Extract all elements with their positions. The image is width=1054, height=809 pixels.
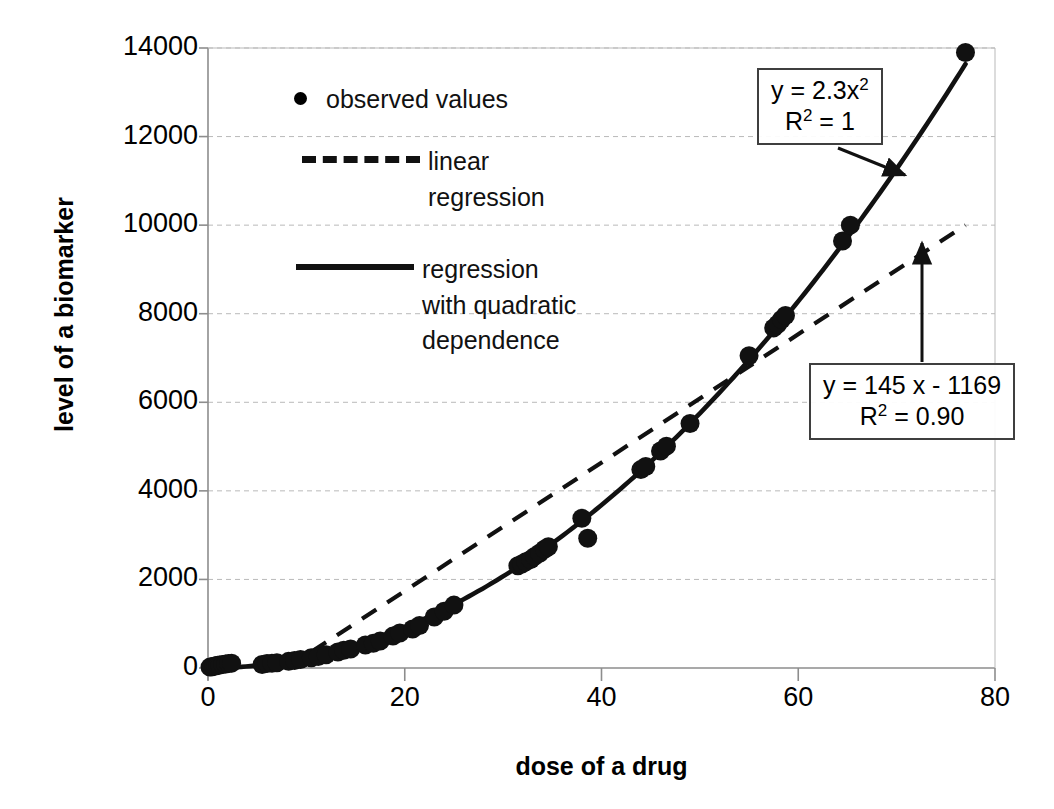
legend-label-quadratic-regression: regression with quadratic dependence <box>422 252 576 359</box>
legend-item-quadratic-regression: regression with quadratic dependence <box>296 252 576 359</box>
legend-key-solid-line <box>296 252 416 282</box>
dashed-line-icon <box>302 156 420 163</box>
legend-key-dot <box>286 82 320 112</box>
x-tick-label: 60 <box>758 682 838 713</box>
legend-label-linear-regression: linear regression <box>428 144 545 215</box>
legend-key-dashed-line <box>302 144 422 174</box>
legend-item-observed-values: observed values <box>286 82 508 118</box>
annotation-linear-equation: y = 145 x - 1169 <box>823 370 1001 401</box>
chart-figure: 02000400060008000100001200014000 0204060… <box>0 0 1054 809</box>
x-tick-label: 40 <box>562 682 642 713</box>
annotation-box-linear: y = 145 x - 1169 R2 = 0.90 <box>809 363 1015 440</box>
annotation-quadratic-equation: y = 2.3x2 <box>771 75 869 106</box>
annotation-linear-r2: R2 = 0.90 <box>823 401 1001 432</box>
x-tick-label: 80 <box>955 682 1035 713</box>
x-axis-title: dose of a drug <box>208 752 995 781</box>
annotation-box-quadratic: y = 2.3x2 R2 = 1 <box>757 68 883 145</box>
x-tick-label: 0 <box>168 682 248 713</box>
legend-label-observed-values: observed values <box>326 82 508 118</box>
filled-circle-icon <box>294 92 307 105</box>
solid-line-icon <box>296 264 414 270</box>
annotation-quadratic-r2: R2 = 1 <box>771 106 869 137</box>
legend-item-linear-regression: linear regression <box>302 144 545 215</box>
x-tick-label: 20 <box>365 682 445 713</box>
y-axis-title: level of a biomarker <box>50 165 79 465</box>
